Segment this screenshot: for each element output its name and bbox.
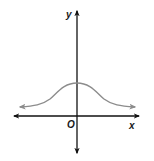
- y-axis-label: y: [66, 10, 72, 20]
- origin-label: O: [67, 120, 75, 130]
- graph-canvas: [0, 0, 154, 161]
- bell-curve-graph: y O x: [0, 0, 154, 161]
- x-axis-label: x: [129, 121, 135, 131]
